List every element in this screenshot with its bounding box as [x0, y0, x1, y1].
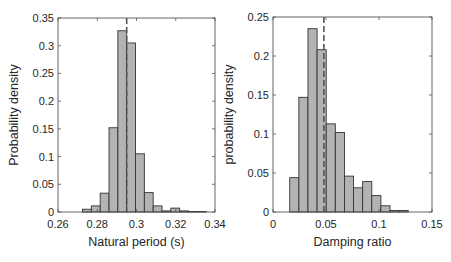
histogram-bar [136, 154, 145, 212]
histogram-bar [144, 193, 153, 212]
x-axis-label: Natural period (s) [88, 235, 185, 249]
histogram-bar [290, 178, 299, 212]
y-tick-label: 0 [48, 206, 54, 218]
natural-period-histogram: 0.260.280.30.320.3400.050.10.150.20.250.… [7, 12, 226, 249]
y-tick-label: 0.25 [33, 67, 54, 79]
x-axis-label: Damping ratio [314, 235, 392, 249]
y-axis-label: probability density [222, 64, 236, 165]
y-tick-label: 0.05 [33, 178, 54, 190]
x-tick-label: 0.3 [129, 218, 144, 230]
histogram-bar [354, 188, 363, 212]
y-axis-label: Probability density [7, 64, 21, 166]
x-tick-label: 0.34 [204, 218, 225, 230]
histogram-bar [372, 196, 381, 212]
x-tick-label: 0.15 [421, 218, 442, 230]
histogram-bar [118, 31, 127, 212]
x-tick-label: 0.28 [87, 218, 108, 230]
histogram-bar [344, 176, 353, 212]
histogram-bar [299, 97, 308, 212]
x-tick-label: 0 [270, 218, 276, 230]
x-tick-label: 0.1 [371, 218, 386, 230]
y-tick-label: 0.1 [39, 151, 54, 163]
histogram-bar [335, 132, 344, 212]
histogram-bar [326, 124, 335, 212]
histogram-bar [100, 193, 109, 212]
histogram-bar [317, 50, 326, 212]
y-tick-label: 0.35 [33, 12, 54, 24]
y-tick-label: 0.1 [254, 128, 269, 140]
y-tick-label: 0.2 [254, 50, 269, 62]
y-tick-label: 0.3 [39, 40, 54, 52]
y-tick-label: 0.2 [39, 95, 54, 107]
histogram-bar [127, 43, 136, 212]
histogram-bar [363, 182, 372, 212]
y-tick-label: 0.15 [248, 89, 269, 101]
y-tick-label: 0.05 [248, 167, 269, 179]
histogram-bar [381, 206, 390, 212]
y-tick-label: 0.25 [248, 11, 269, 23]
y-tick-label: 0 [263, 206, 269, 218]
x-tick-label: 0.26 [47, 218, 68, 230]
histogram-bar [308, 29, 317, 212]
histogram-bar [109, 128, 118, 212]
histogram-figure: 0.260.280.30.320.3400.050.10.150.20.250.… [0, 0, 451, 262]
x-tick-label: 0.05 [315, 218, 336, 230]
y-tick-label: 0.15 [33, 123, 54, 135]
x-tick-label: 0.32 [165, 218, 186, 230]
damping-ratio-histogram: 00.050.10.1500.050.10.150.20.25Damping r… [222, 11, 443, 249]
histogram-bar [91, 206, 100, 212]
histogram-bar [171, 208, 180, 212]
histogram-bar [153, 206, 162, 212]
